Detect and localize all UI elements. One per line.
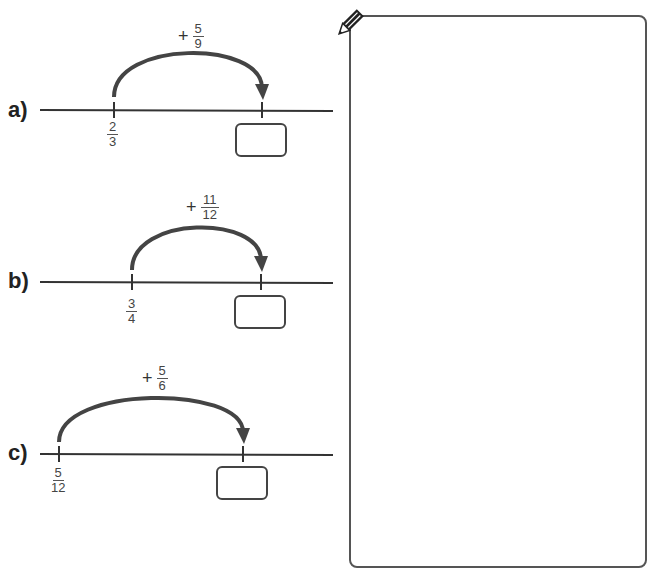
jump-denominator: 6 [157,379,168,393]
start-denominator: 12 [49,481,67,495]
start-denominator: 3 [107,135,118,149]
plus-sign: + [142,368,153,389]
start-fraction-c: 5 12 [49,466,67,495]
jump-label-c: + 5 6 [142,364,168,393]
start-fraction-a: 2 3 [107,120,118,149]
jump-numerator: 5 [157,364,168,379]
start-numerator: 5 [53,466,64,481]
start-fraction-b: 3 4 [126,297,137,326]
jump-numerator: 5 [193,22,204,37]
working-area[interactable] [349,15,647,568]
plus-sign: + [178,26,189,47]
start-numerator: 2 [107,120,118,135]
question-label-c: c) [8,440,28,466]
plus-sign: + [186,197,197,218]
jump-denominator: 12 [201,208,219,222]
answer-box-a[interactable] [235,123,287,157]
question-label-a: a) [8,97,28,123]
jump-numerator: 11 [201,193,219,208]
jump-denominator: 9 [193,37,204,51]
pencil-icon [333,8,365,40]
start-denominator: 4 [126,312,137,326]
start-numerator: 3 [126,297,137,312]
jump-label-a: + 5 9 [178,22,204,51]
answer-box-b[interactable] [234,295,286,329]
answer-box-c[interactable] [216,466,268,500]
jump-label-b: + 11 12 [186,193,219,222]
question-label-b: b) [8,268,29,294]
